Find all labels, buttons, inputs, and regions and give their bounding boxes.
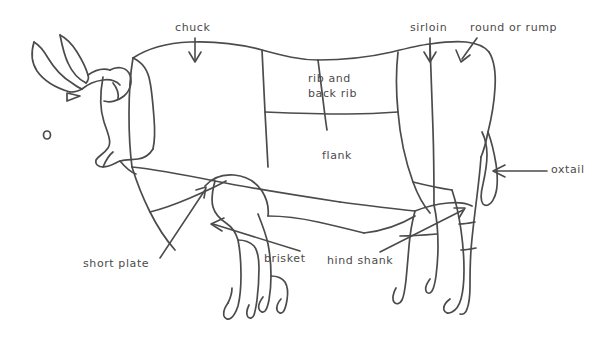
hind-leg-far <box>444 157 481 314</box>
chest-bottom-line <box>268 216 364 233</box>
rump-rear-outline <box>488 52 495 132</box>
topline-chuck <box>133 42 318 60</box>
lower-flank-line <box>364 216 415 233</box>
topline-rump <box>430 42 489 52</box>
arrow-hind-shank <box>380 208 465 252</box>
hind-shank-divider <box>400 234 437 236</box>
label-oxtail: oxtail <box>551 163 585 177</box>
horn-base-line <box>88 69 110 75</box>
label-flank: flank <box>322 149 352 163</box>
cow-head-outline <box>96 58 155 167</box>
cow-butcher-chart <box>0 0 616 348</box>
hind-shank-divider-far <box>459 222 475 224</box>
label-hind-shank: hind shank <box>327 254 393 268</box>
topline-loin <box>318 44 430 60</box>
eye <box>67 93 80 101</box>
front-leg-near <box>212 181 259 319</box>
arrow-sirloin <box>424 38 436 62</box>
short-plate-line <box>132 167 175 250</box>
label-short-plate: short plate <box>83 257 149 271</box>
label-rib-line-1: rib and <box>308 71 357 86</box>
nostril <box>44 131 51 139</box>
label-brisket: brisket <box>264 252 306 266</box>
arrow-short-plate <box>160 187 206 258</box>
ear <box>104 68 131 102</box>
hind-leg-near <box>393 205 438 304</box>
chuck-rib-divider <box>262 50 268 167</box>
label-rib-line-2: back rib <box>308 86 357 101</box>
beef-cuts-diagram-page: chuck sirloin round or rump rib and back… <box>0 0 616 348</box>
sirloin-front-curve <box>397 52 431 213</box>
label-round-or-rump: round or rump <box>470 21 557 35</box>
arrow-oxtail <box>493 165 547 177</box>
sirloin-round-divider <box>430 44 434 205</box>
label-rib-and-back-rib: rib and back rib <box>308 71 357 101</box>
arrow-brisket <box>211 218 300 251</box>
flank-rear-divider <box>413 182 452 190</box>
label-sirloin: sirloin <box>410 21 447 35</box>
belly-line <box>132 167 340 202</box>
label-chuck: chuck <box>175 21 210 35</box>
tail <box>481 132 497 205</box>
right-horn <box>60 35 88 83</box>
flank-bottom-line <box>340 202 415 211</box>
rib-flank-divider <box>265 112 398 114</box>
